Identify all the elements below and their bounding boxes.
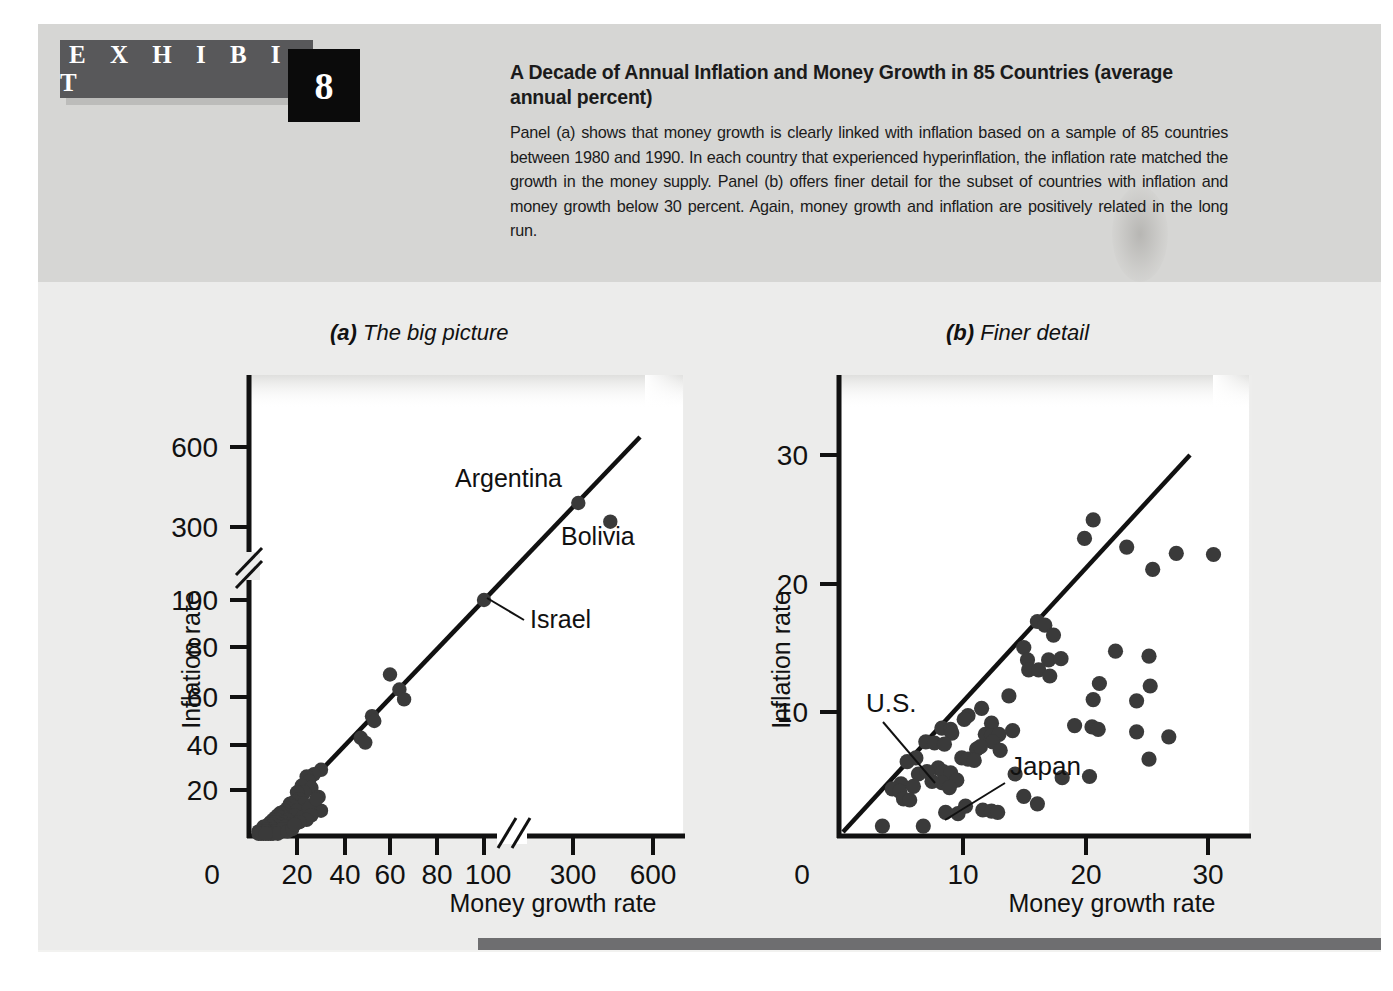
svg-text:80: 80: [187, 632, 218, 663]
data-point: [1145, 562, 1160, 577]
data-point: [309, 792, 323, 806]
data-point: [1169, 546, 1184, 561]
data-point: [942, 780, 957, 795]
data-point: [383, 667, 397, 681]
panel-b-x-ticks: [963, 836, 1208, 855]
panel-a-x-ticklabels: 0 20 40 60 80 100 300 600: [204, 859, 676, 890]
svg-text:100: 100: [171, 585, 218, 616]
data-point: [1143, 678, 1158, 693]
data-point: [358, 735, 372, 749]
data-point: [367, 714, 381, 728]
data-point: [1129, 693, 1144, 708]
data-point: [990, 805, 1005, 820]
data-point: [1129, 724, 1144, 739]
panel-a-plot-area: [247, 375, 683, 836]
svg-text:300: 300: [171, 512, 218, 543]
panel-a-right-shade: [645, 375, 685, 836]
panel-a-chart: Argentina Bolivia Israel Inflation rate …: [171, 375, 685, 917]
data-point: [287, 817, 301, 831]
data-point: [937, 737, 952, 752]
svg-text:60: 60: [187, 682, 218, 713]
page-edge-left: [0, 0, 38, 991]
data-point: [1005, 723, 1020, 738]
data-point: [1046, 628, 1061, 643]
data-point: [973, 739, 988, 754]
svg-text:40: 40: [187, 730, 218, 761]
exhibit-page: E X H I B I T 8 A Decade of Annual Infla…: [0, 0, 1393, 991]
page-edge-bottom: [0, 952, 1393, 991]
svg-text:20: 20: [187, 775, 218, 806]
svg-text:40: 40: [329, 859, 360, 890]
data-point: [1082, 769, 1097, 784]
panel-b-label-us: U.S.: [866, 688, 917, 718]
data-point: [1067, 718, 1082, 733]
svg-text:10: 10: [777, 697, 808, 728]
svg-text:100: 100: [465, 859, 512, 890]
svg-text:20: 20: [281, 859, 312, 890]
data-point: [1086, 692, 1101, 707]
svg-text:600: 600: [171, 432, 218, 463]
svg-text:30: 30: [1192, 859, 1223, 890]
data-point: [1001, 688, 1016, 703]
data-point: [916, 819, 931, 834]
data-point: [1091, 722, 1106, 737]
panel-a-label-bolivia: Bolivia: [561, 522, 635, 550]
data-point: [967, 753, 982, 768]
svg-text:60: 60: [374, 859, 405, 890]
data-point: [259, 827, 273, 841]
data-point: [1141, 752, 1156, 767]
bottom-rule-light: [38, 938, 478, 950]
data-point: [906, 779, 921, 794]
data-point: [974, 701, 989, 716]
data-point: [1108, 644, 1123, 659]
data-point: [902, 792, 917, 807]
data-point: [571, 496, 585, 510]
svg-text:300: 300: [550, 859, 597, 890]
svg-text:0: 0: [794, 859, 810, 890]
svg-text:0: 0: [204, 859, 220, 890]
data-point: [957, 712, 972, 727]
panel-b-xlabel: Money growth rate: [1008, 889, 1215, 917]
data-point: [397, 692, 411, 706]
panel-a-top-shade: [247, 375, 683, 409]
bottom-rule: [478, 938, 1381, 950]
panel-a-xlabel: Money growth rate: [449, 889, 656, 917]
data-point: [1053, 651, 1068, 666]
panel-b-y-ticks: [820, 455, 839, 712]
data-point: [1077, 531, 1092, 546]
data-point: [1161, 729, 1176, 744]
svg-text:20: 20: [777, 569, 808, 600]
data-point: [1086, 512, 1101, 527]
data-point: [1030, 796, 1045, 811]
page-edge-top: [0, 0, 1393, 24]
data-point: [1141, 649, 1156, 664]
panel-b-top-shade: [837, 375, 1249, 409]
data-point: [924, 774, 939, 789]
panel-a-label-argentina: Argentina: [455, 464, 562, 492]
page-edge-right: [1381, 0, 1393, 991]
panel-b-right-shade: [1213, 375, 1253, 836]
panel-b-chart: U.S. Japan Inflation rate Money growth r…: [767, 375, 1253, 917]
svg-text:30: 30: [777, 440, 808, 471]
panel-b-x-ticklabels: 0 10 20 30: [794, 859, 1223, 890]
svg-text:10: 10: [947, 859, 978, 890]
data-point: [1206, 547, 1221, 562]
charts-svg: Argentina Bolivia Israel Inflation rate …: [0, 0, 1393, 991]
svg-text:600: 600: [630, 859, 677, 890]
data-point: [1042, 668, 1057, 683]
panel-a-y-ticks: [230, 447, 249, 790]
data-point: [875, 819, 890, 834]
svg-text:20: 20: [1070, 859, 1101, 890]
data-point: [1092, 676, 1107, 691]
data-point: [1016, 789, 1031, 804]
data-point: [993, 743, 1008, 758]
panel-a-x-ticks: [297, 836, 653, 855]
data-point: [1119, 540, 1134, 555]
panel-b-label-japan: Japan: [1010, 751, 1081, 781]
svg-text:80: 80: [421, 859, 452, 890]
panel-a-label-israel: Israel: [530, 605, 591, 633]
